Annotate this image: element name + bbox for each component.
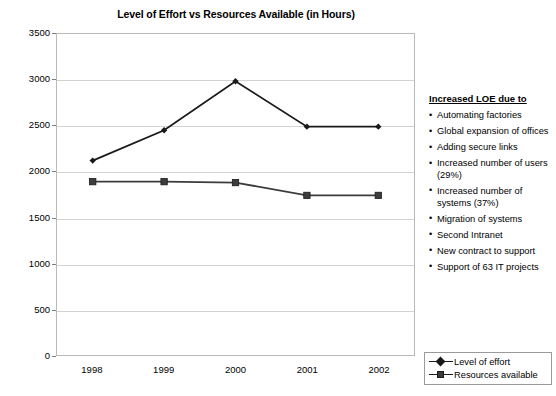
y-axis-tick-label: 3500: [6, 28, 50, 38]
side-note-bullet-item: New contract to support: [429, 246, 553, 258]
side-note-bullet-list: Automating factoriesGlobal expansion of …: [429, 110, 553, 274]
y-axis-tick-label: 1000: [6, 259, 50, 269]
y-axis-tick-mark: [52, 79, 56, 80]
legend-label: Level of effort: [454, 356, 510, 368]
y-axis-tick-label: 1500: [6, 213, 50, 223]
side-note-bullet-item: Global expansion of offices: [429, 126, 553, 138]
x-axis-tick-label: 2000: [206, 364, 266, 375]
side-note-heading: Increased LOE due to: [429, 93, 553, 105]
legend-label: Resources available: [454, 369, 538, 381]
y-axis-tick-label: 2500: [6, 120, 50, 130]
side-note-bullet-item: Migration of systems: [429, 214, 553, 226]
y-axis-tick-mark: [52, 218, 56, 219]
data-point-diamond-marker: [375, 123, 381, 129]
data-point-square-marker: [304, 192, 310, 198]
chart-title: Level of Effort vs Resources Available (…: [56, 8, 416, 20]
side-note-panel: Increased LOE due to Automating factorie…: [429, 93, 553, 278]
side-note-bullet-item: Increased number of systems (37%): [429, 186, 553, 209]
data-point-square-marker: [90, 178, 96, 184]
side-note-bullet-item: Adding secure links: [429, 142, 553, 154]
y-axis-tick-mark: [52, 171, 56, 172]
side-note-bullet-item: Automating factories: [429, 110, 553, 122]
y-axis-tick-label: 0: [6, 351, 50, 361]
y-axis-tick-mark: [52, 356, 56, 357]
series-layer: [57, 34, 414, 355]
legend-square-marker-icon: [428, 369, 454, 381]
data-point-square-marker: [161, 178, 167, 184]
y-axis-tick-label: 3000: [6, 74, 50, 84]
legend-diamond-marker-icon: [428, 356, 454, 368]
series-line-level-of-effort: [93, 81, 379, 160]
side-note-bullet-item: Increased number of users (29%): [429, 158, 553, 181]
chart-legend: Level of effort Resources available: [424, 352, 552, 385]
side-note-bullet-item: Second Intranet: [429, 230, 553, 242]
plot-area: [56, 33, 415, 356]
y-axis-tick-label: 500: [6, 305, 50, 315]
y-axis-tick-label: 2000: [6, 166, 50, 176]
x-axis-tick-label: 1998: [62, 364, 122, 375]
chart-figure: Level of Effort vs Resources Available (…: [0, 0, 556, 396]
side-note-bullet-item: Support of 63 IT projects: [429, 262, 553, 274]
y-axis-tick-mark: [52, 264, 56, 265]
x-axis-tick-label: 1999: [134, 364, 194, 375]
legend-item-level-of-effort: Level of effort: [428, 355, 548, 368]
x-axis-tick-label: 2002: [349, 364, 409, 375]
y-axis-tick-mark: [52, 33, 56, 34]
data-point-square-marker: [375, 192, 381, 198]
data-point-diamond-marker: [90, 157, 96, 163]
data-point-square-marker: [232, 179, 238, 185]
legend-item-resources-available: Resources available: [428, 368, 548, 381]
y-axis-tick-mark: [52, 125, 56, 126]
y-axis-tick-mark: [52, 310, 56, 311]
x-axis-tick-label: 2001: [277, 364, 337, 375]
